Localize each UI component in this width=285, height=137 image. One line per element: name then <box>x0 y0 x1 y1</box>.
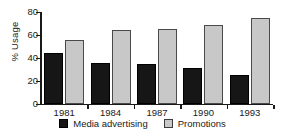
y-axis-tick-labels: 80 60 40 20 0 <box>16 0 38 137</box>
dark-square-swatch-icon <box>59 119 68 128</box>
bar-1984-promotions <box>112 30 131 104</box>
x-tick-label-1987: 1987 <box>137 107 177 118</box>
x-axis-tick-1981 <box>87 105 89 109</box>
bar-1981-media-advertising <box>44 53 63 104</box>
x-axis-tick-1993 <box>273 105 275 109</box>
y-tick-label-40: 40 <box>18 53 38 63</box>
y-tick-label-80: 80 <box>18 7 38 17</box>
plot-area <box>41 12 273 104</box>
bar-1987-media-advertising <box>137 64 156 104</box>
bar-chart: % Usage 80 60 40 20 0 198119841987199019… <box>0 0 285 137</box>
y-tick-label-20: 20 <box>18 76 38 86</box>
x-tick-label-1993: 1993 <box>230 107 270 118</box>
legend-item-media-advertising: Media advertising <box>59 118 147 129</box>
x-tick-label-1981: 1981 <box>44 107 84 118</box>
x-axis-tick-1990 <box>227 105 229 109</box>
x-axis-tick-1987 <box>180 105 182 109</box>
bar-1993-promotions <box>251 18 270 104</box>
bar-1981-promotions <box>65 40 84 104</box>
legend-item-promotions: Promotions <box>164 118 226 129</box>
light-square-swatch-icon <box>164 119 173 128</box>
bar-1987-promotions <box>158 29 177 104</box>
x-tick-label-1990: 1990 <box>183 107 223 118</box>
y-tick-label-0: 0 <box>18 99 38 109</box>
x-tick-label-1984: 1984 <box>91 107 131 118</box>
y-tick-label-60: 60 <box>18 30 38 40</box>
chart-legend: Media advertising Promotions <box>0 118 285 129</box>
bar-1984-media-advertising <box>91 63 110 104</box>
legend-label-media-advertising: Media advertising <box>73 118 147 129</box>
bar-1990-promotions <box>204 25 223 104</box>
legend-label-promotions: Promotions <box>178 118 226 129</box>
x-axis-tick-1984 <box>134 105 136 109</box>
bar-1993-media-advertising <box>230 75 249 104</box>
bar-1990-media-advertising <box>183 68 202 104</box>
